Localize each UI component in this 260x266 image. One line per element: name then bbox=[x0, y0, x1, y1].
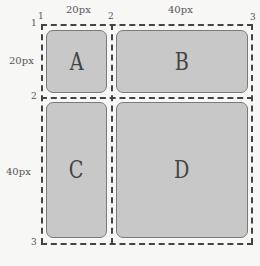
column-line-2-number: 2 bbox=[108, 11, 114, 21]
column-line-3-number: 3 bbox=[250, 12, 256, 22]
column-grid-line-2 bbox=[111, 24, 113, 244]
column-1-size-label: 20px bbox=[66, 4, 91, 15]
cell-a-label: A bbox=[70, 48, 84, 76]
row-grid-line-1 bbox=[41, 24, 253, 26]
column-grid-line-3 bbox=[251, 24, 253, 244]
row-grid-line-3 bbox=[41, 243, 253, 245]
grid-cell-d: D bbox=[116, 102, 248, 238]
cell-b-label: B bbox=[175, 48, 189, 76]
grid-cell-b: B bbox=[116, 30, 248, 93]
row-grid-line-2 bbox=[41, 97, 253, 99]
column-2-size-label: 40px bbox=[168, 4, 193, 15]
row-line-3-number: 3 bbox=[31, 237, 37, 247]
grid-cell-a: A bbox=[46, 30, 107, 93]
grid-cell-c: C bbox=[46, 102, 107, 238]
row-line-2-number: 2 bbox=[31, 91, 37, 101]
column-line-1-number: 1 bbox=[38, 11, 44, 21]
row-2-size-label: 40px bbox=[6, 166, 31, 177]
row-line-1-number: 1 bbox=[31, 18, 37, 28]
row-1-size-label: 20px bbox=[9, 55, 34, 66]
cell-c-label: C bbox=[69, 156, 84, 184]
column-grid-line-1 bbox=[41, 24, 43, 244]
cell-d-label: D bbox=[174, 156, 189, 184]
